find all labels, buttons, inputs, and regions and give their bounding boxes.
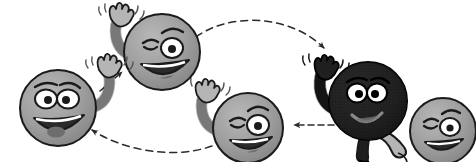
smiley-face-far-right	[410, 98, 476, 162]
arrow-bottom-to-left	[92, 130, 212, 153]
illustration-canvas	[0, 0, 476, 162]
dark-waving-hand-icon	[315, 55, 339, 80]
arrow-top-to-dark	[196, 20, 324, 48]
bottom-waving-hand-icon	[196, 79, 220, 103]
left-waving-hand-icon	[98, 54, 122, 78]
smiley-cycle-illustration	[0, 0, 476, 162]
smiley-face-dark-right	[303, 54, 407, 162]
smiley-face-left	[20, 54, 133, 146]
top-waving-hand-icon	[110, 3, 134, 27]
smiley-face-bottom-center	[191, 78, 283, 162]
